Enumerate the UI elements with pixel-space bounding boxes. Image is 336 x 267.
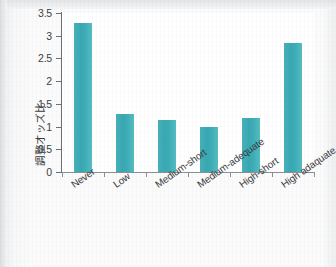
y-tick-label: 3 <box>46 30 52 42</box>
y-tick-label: 1 <box>46 121 52 133</box>
y-tick-label: 2.5 <box>38 52 52 64</box>
y-axis-title: 調整オッズ比 <box>32 102 47 165</box>
bar <box>74 23 92 172</box>
y-tick-label: 2 <box>46 75 52 87</box>
x-tick <box>314 172 315 177</box>
category-label: Low <box>111 171 132 190</box>
bar <box>116 114 134 172</box>
x-tick <box>230 172 231 177</box>
x-tick <box>146 172 147 177</box>
bar <box>158 120 176 172</box>
x-tick <box>272 172 273 177</box>
bar-chart: 00.511.522.533.5 NeverLowMedium-shortMed… <box>0 0 336 267</box>
x-tick <box>188 172 189 177</box>
bar <box>284 43 302 172</box>
x-tick <box>62 172 63 177</box>
bars-container <box>62 13 314 172</box>
y-tick-label: 3.5 <box>38 7 52 19</box>
y-tick-label: 0 <box>46 166 52 178</box>
x-tick <box>104 172 105 177</box>
